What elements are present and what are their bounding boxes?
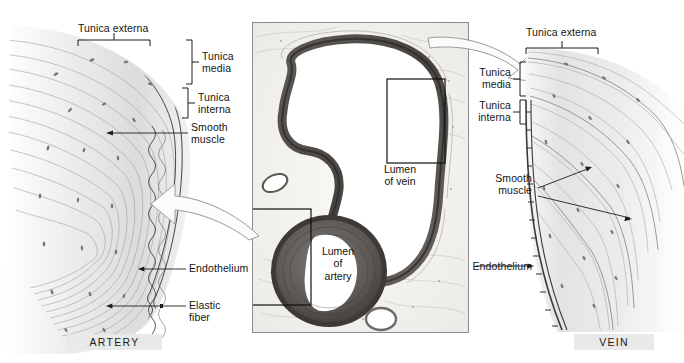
artery-tunica-media-bracket [186,40,199,84]
artery-caption: ARTERY [67,334,162,350]
lumen-of-vein-label: Lumen of vein [365,163,435,188]
vein-endothelium-label: Endothelium [470,260,532,272]
figure-canvas: Tunica externa Tunica media Tunica inter… [0,0,684,363]
artery-tunica-interna-bracket [182,88,195,118]
vein-caption: VEIN [574,334,654,350]
artery-endothelium-label: Endothelium [189,262,248,274]
vein-panel: Tunica externa Tunica media Tunica inter… [470,0,684,363]
artery-tunica-externa-label: Tunica externa [78,22,148,34]
lumen-of-artery-label: Lumen of artery [303,245,373,282]
vein-tunica-interna-bracket [513,100,526,124]
vein-tunica-media-bracket [513,62,526,96]
artery-magnify-arrow [145,180,265,242]
vein-tunica-externa-label: Tunica externa [526,26,596,38]
vein-tunica-media-label: Tunica media [471,66,511,90]
artery-tunica-interna-label: Tunica interna [198,91,231,115]
vein-tunica-interna-label: Tunica interna [471,99,511,123]
artery-smooth-muscle-label: Smooth muscle [191,121,228,145]
artery-elastic-fiber-label: Elastic fiber [189,299,221,323]
vein-smooth-muscle-label: Smooth muscle [470,172,532,196]
artery-tunica-media-label: Tunica media [202,50,234,74]
